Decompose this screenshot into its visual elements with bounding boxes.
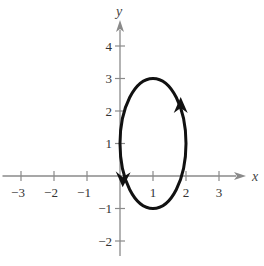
y-tick-label: −1	[98, 201, 112, 216]
x-tick-label: 2	[183, 185, 190, 200]
y-tick-label: 3	[106, 71, 113, 86]
axes	[3, 20, 247, 256]
x-tick-label: −3	[11, 185, 25, 200]
y-tick-label: 2	[106, 104, 113, 119]
y-tick-label: −2	[98, 234, 112, 249]
y-tick-label: 4	[106, 39, 113, 54]
x-axis-label: x	[251, 169, 259, 184]
x-tick-label: 3	[216, 185, 223, 200]
chart: −3−2−1123−2−11234 x y	[0, 0, 264, 266]
x-tick-label: 1	[150, 185, 157, 200]
y-tick-label: 1	[106, 136, 113, 151]
x-tick-label: −1	[77, 185, 91, 200]
ticks: −3−2−1123−2−11234	[11, 39, 222, 249]
x-tick-label: −2	[44, 185, 58, 200]
y-axis-label: y	[114, 4, 123, 19]
